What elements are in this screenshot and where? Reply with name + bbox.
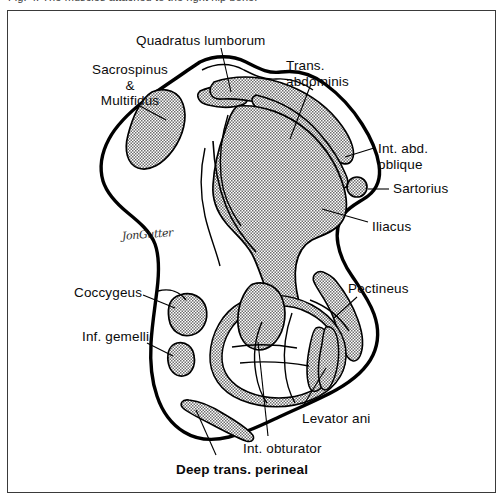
figure-page: Fig. 4. The muscles attached to the righ…: [0, 0, 504, 504]
label-sacrospinus-multifidus: Sacrospinus & Multifidus: [72, 62, 188, 109]
label-trans-abdominis: Trans. abdominis: [286, 58, 349, 89]
label-levator-ani: Levator ani: [302, 411, 370, 427]
label-int-obturator: Int. obturator: [243, 441, 322, 457]
label-int-abd-oblique: Int. abd. oblique: [378, 141, 428, 172]
label-quadratus-lumborum: Quadratus lumborum: [136, 33, 266, 49]
label-iliacus: Iliacus: [372, 219, 411, 235]
label-deep-trans-perineal: Deep trans. perineal: [176, 462, 308, 478]
label-pectineus: Pectineus: [348, 281, 409, 297]
label-sartorius: Sartorius: [393, 181, 448, 197]
label-inf-gemelli: Inf. gemelli: [82, 329, 149, 345]
clipped-caption-text: Fig. 4. The muscles attached to the righ…: [8, 0, 488, 5]
label-coccygeus: Coccygeus: [74, 285, 142, 301]
